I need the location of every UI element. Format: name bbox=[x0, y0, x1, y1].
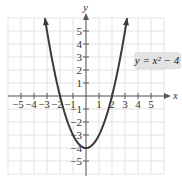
y-tick-label: −4 bbox=[70, 142, 82, 154]
y-tick-label: 3 bbox=[77, 51, 83, 63]
x-tick-label: −5 bbox=[12, 98, 24, 110]
x-tick-label: −4 bbox=[25, 98, 37, 110]
y-axis: y bbox=[82, 1, 89, 176]
y-axis-label: y bbox=[82, 1, 88, 13]
x-axis-arrow-icon bbox=[164, 93, 171, 99]
y-tick-label: 1 bbox=[77, 77, 83, 89]
parabola-chart: x y −5−4−3−2−11234554321−1−2−3−4−5 bbox=[0, 0, 182, 182]
y-axis-arrow-icon bbox=[83, 13, 89, 20]
x-tick-label: 3 bbox=[122, 98, 128, 110]
equation-label: y = x² − 4 bbox=[134, 52, 180, 68]
y-tick-label: −5 bbox=[70, 155, 82, 167]
x-tick-label: −3 bbox=[38, 98, 50, 110]
x-tick-label: 4 bbox=[135, 98, 141, 110]
y-tick-label: −1 bbox=[70, 103, 82, 115]
x-axis-label: x bbox=[172, 89, 178, 101]
y-tick-label: −2 bbox=[70, 116, 82, 128]
y-tick-label: 5 bbox=[77, 25, 83, 37]
y-tick-label: 4 bbox=[77, 38, 83, 50]
x-tick-label: 5 bbox=[148, 98, 154, 110]
y-tick-label: 2 bbox=[77, 64, 83, 76]
x-tick-label: 1 bbox=[96, 98, 102, 110]
